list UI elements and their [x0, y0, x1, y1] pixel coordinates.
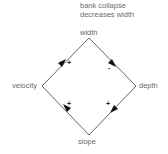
sign-slope-velocity: + — [67, 100, 71, 107]
causal-loop-diagram — [0, 0, 168, 154]
sign-width-depth: - — [108, 64, 110, 71]
edge-slope-velocity — [42, 86, 89, 135]
sign-depth-slope: + — [106, 100, 110, 107]
edge-velocity-width — [42, 38, 89, 86]
sign-velocity-width: + — [67, 59, 71, 66]
